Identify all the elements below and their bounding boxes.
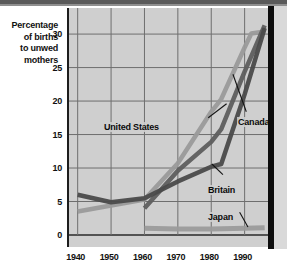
series-label-united-states: United States (103, 122, 160, 132)
series-label-japan: Japan (207, 212, 234, 222)
y-tick-15: 15 (44, 130, 62, 140)
top-decorative-band-highlight (0, 4, 287, 6)
x-tick-1980: 1980 (194, 252, 224, 262)
plot-area (67, 8, 268, 247)
right-page-edge (274, 6, 287, 249)
y-tick-0: 0 (44, 230, 62, 240)
series-label-britain: Britain (207, 185, 236, 195)
series-line-japan (144, 228, 264, 229)
x-tick-1950: 1950 (94, 252, 124, 262)
x-tick-1940: 1940 (61, 252, 91, 262)
x-tick-1960: 1960 (127, 252, 157, 262)
y-axis-title-line-3: to unwed (2, 43, 58, 55)
y-tick-5: 5 (44, 197, 62, 207)
x-tick-1970: 1970 (161, 252, 191, 262)
y-tick-25: 25 (44, 63, 62, 73)
chart-figure: Percentage of births to unwed mothers 30… (0, 0, 287, 269)
y-axis-title: Percentage of births to unwed mothers (2, 20, 58, 66)
chart-canvas (69, 8, 270, 247)
y-tick-30: 30 (44, 29, 62, 39)
x-tick-1990: 1990 (228, 252, 258, 262)
y-tick-20: 20 (44, 96, 62, 106)
series-label-canada: Canada (237, 117, 270, 127)
y-tick-10: 10 (44, 163, 62, 173)
